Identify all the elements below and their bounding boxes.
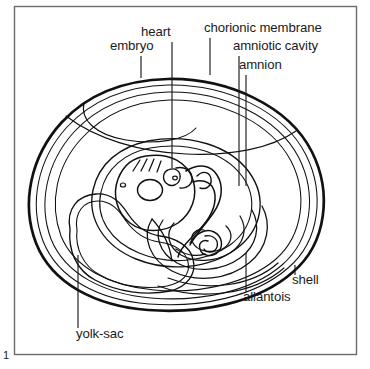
figure-number: 1 [3, 349, 9, 361]
label-amniotic-cavity: amniotic cavity [233, 38, 318, 53]
egg-embryo-diagram: embryo heart chorionic membrane amniotic… [0, 0, 370, 369]
figure-container: embryo heart chorionic membrane amniotic… [0, 0, 370, 369]
label-embryo: embryo [110, 38, 153, 53]
label-yolk-sac: yolk-sac [76, 326, 124, 341]
label-heart: heart [141, 24, 171, 39]
figure-frame [15, 7, 357, 355]
label-chorionic-membrane: chorionic membrane [204, 20, 322, 35]
label-amnion: amnion [239, 57, 282, 72]
label-shell: shell [292, 272, 319, 287]
label-allantois: allantois [243, 289, 291, 304]
